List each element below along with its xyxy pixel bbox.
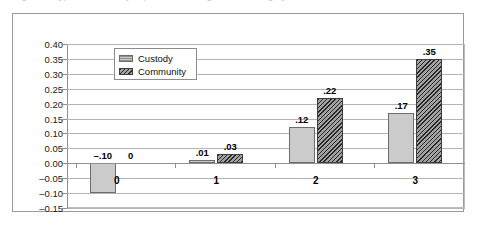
bar-community-cat-3 bbox=[416, 59, 442, 163]
bar-value-label-custody-cat-2: .12 bbox=[295, 114, 308, 125]
legend-item-community: Community bbox=[119, 65, 192, 78]
y-axis-tick-mark bbox=[61, 119, 67, 120]
gridline bbox=[67, 208, 465, 209]
chart-legend: Custody Community bbox=[114, 48, 197, 80]
gridline bbox=[67, 178, 465, 179]
bar-custody-cat-2 bbox=[289, 127, 315, 163]
y-axis-tick-label: –0.05 bbox=[39, 173, 63, 184]
bar-value-label-community-cat-1: .03 bbox=[224, 141, 237, 152]
figure-frame: 0.400.350.300.250.200.150.100.050.00–0.0… bbox=[12, 13, 464, 212]
gridline bbox=[67, 89, 465, 90]
bar-community-cat-1 bbox=[217, 154, 243, 163]
y-axis-tick-label: –0.15 bbox=[39, 203, 63, 214]
y-axis-tick-mark bbox=[61, 133, 67, 134]
y-axis-tick-mark bbox=[61, 104, 67, 105]
x-axis-category-label-0: 0 bbox=[114, 175, 120, 186]
legend-item-custody: Custody bbox=[119, 52, 192, 65]
x-axis-category-label-3: 3 bbox=[412, 175, 418, 186]
bar-value-label-community-cat-2: .22 bbox=[323, 85, 336, 96]
y-axis-tick-mark bbox=[61, 59, 67, 60]
y-axis-tick-mark bbox=[61, 178, 67, 179]
legend-label-custody: Custody bbox=[138, 53, 173, 64]
y-axis-tick-label: –0.10 bbox=[39, 188, 63, 199]
y-axis-tick-mark bbox=[61, 89, 67, 90]
x-axis-category-label-1: 1 bbox=[213, 175, 219, 186]
y-axis-tick-mark bbox=[61, 74, 67, 75]
legend-label-community: Community bbox=[138, 66, 186, 77]
bar-value-label-community-cat-0: 0 bbox=[128, 150, 133, 161]
clipped-caption-text: Figure 1. Type of offence by supervision… bbox=[14, 0, 287, 1]
bar-custody-cat-3 bbox=[388, 113, 414, 164]
y-axis-tick-mark bbox=[61, 148, 67, 149]
bar-value-label-custody-cat-1: .01 bbox=[196, 147, 209, 158]
x-axis-category-label-2: 2 bbox=[313, 175, 319, 186]
bar-value-label-custody-cat-3: .17 bbox=[395, 100, 408, 111]
y-axis-tick-mark bbox=[61, 193, 67, 194]
y-axis-line bbox=[67, 44, 68, 208]
bar-value-label-community-cat-3: .35 bbox=[423, 46, 436, 57]
zero-baseline bbox=[67, 163, 465, 164]
bar-community-cat-2 bbox=[317, 98, 343, 164]
bar-value-label-custody-cat-0: –.10 bbox=[94, 150, 113, 161]
gridline bbox=[67, 44, 465, 45]
clipped-caption-remnant: Figure 1. Type of offence by supervision… bbox=[0, 0, 478, 7]
y-axis-tick-mark bbox=[61, 44, 67, 45]
bar-custody-cat-0 bbox=[90, 163, 116, 193]
chart-plot-area: 0.400.350.300.250.200.150.100.050.00–0.0… bbox=[67, 44, 465, 208]
legend-swatch-community-icon bbox=[119, 68, 133, 75]
y-axis-tick-mark bbox=[61, 208, 67, 209]
legend-swatch-custody-icon bbox=[119, 55, 133, 62]
gridline bbox=[67, 193, 465, 194]
